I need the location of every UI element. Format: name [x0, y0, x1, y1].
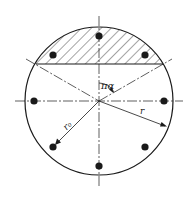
outer-radius-label: r: [140, 106, 145, 116]
rebar-dot: [30, 97, 37, 104]
circular-section-diagram: πα r r₀: [0, 0, 192, 198]
rebar-dot: [95, 32, 102, 39]
angle-label: πα: [100, 80, 115, 91]
rebar-dot: [95, 162, 102, 169]
bar-radius-label: r₀: [61, 119, 74, 132]
rebar-dot: [49, 51, 56, 58]
outer-radius-line: [99, 101, 165, 126]
rebar-dot: [141, 51, 148, 58]
rebar-dot: [141, 143, 148, 150]
rebar-dot: [160, 97, 167, 104]
angle-ray-left: [26, 59, 99, 101]
rebar-dot: [49, 143, 56, 150]
outer-radius-arrowhead: [160, 122, 167, 127]
